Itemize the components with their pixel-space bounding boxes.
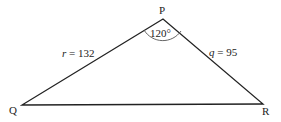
- triangle-diagram: P Q R 120° r = 132 q = 95: [0, 0, 281, 122]
- vertex-label-q: Q: [9, 104, 17, 116]
- triangle-pqr: [22, 19, 263, 105]
- angle-label-p: 120°: [150, 27, 171, 39]
- side-label-q: q = 95: [209, 46, 238, 58]
- side-label-r: r = 132: [62, 47, 95, 59]
- vertex-label-p: P: [159, 4, 165, 16]
- vertex-label-r: R: [262, 105, 270, 117]
